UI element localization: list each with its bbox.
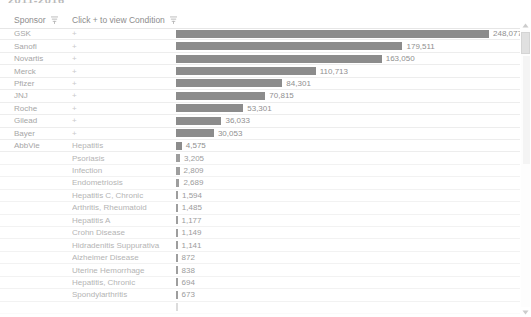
bar-value-label: 1,149 [182, 228, 202, 237]
cell-condition[interactable]: Hepatitis A [72, 216, 176, 225]
table-row[interactable] [0, 302, 531, 314]
column-header-sponsor-label: Sponsor [14, 15, 46, 25]
table-body[interactable]: GSK+248,077Sanofi+179,511Novartis+163,05… [0, 28, 531, 317]
cell-condition[interactable]: Hidradenitis Suppurativa [72, 241, 176, 250]
bar-cell: 673 [176, 289, 531, 300]
expand-plus-icon[interactable]: + [72, 105, 77, 113]
bar[interactable] [176, 55, 382, 63]
bar[interactable] [176, 216, 178, 224]
expand-plus-icon[interactable]: + [72, 80, 77, 88]
cell-condition[interactable]: + [72, 29, 176, 38]
expand-plus-icon[interactable]: + [72, 130, 77, 138]
cell-sponsor: Novartis [0, 54, 72, 63]
table-row[interactable]: Hidradenitis Suppurativa1,141 [0, 239, 531, 251]
cell-condition[interactable]: Hepatitis C, Chronic [72, 191, 176, 200]
cell-condition[interactable]: Infection [72, 166, 176, 175]
bar-value-label: 163,050 [386, 54, 415, 63]
column-header-condition[interactable]: Click + to view Condition [72, 15, 176, 25]
table-row[interactable]: Uterine Hemorrhage838 [0, 264, 531, 276]
cell-condition[interactable]: Hepatitis, Chronic [72, 278, 176, 287]
table-row[interactable]: Gilead+36,033 [0, 115, 531, 127]
cell-condition[interactable]: + [72, 67, 176, 76]
table-row[interactable]: Novartis+163,050 [0, 53, 531, 65]
expand-plus-icon[interactable]: + [72, 117, 77, 125]
scroll-down-arrow-icon[interactable] [520, 307, 531, 317]
table-row[interactable]: Crohn Disease1,149 [0, 227, 531, 239]
table-row[interactable]: Hepatitis A1,177 [0, 215, 531, 227]
column-header-sponsor[interactable]: Sponsor [0, 15, 72, 25]
cell-condition[interactable]: + [72, 54, 176, 63]
bar[interactable] [176, 191, 178, 199]
cell-condition[interactable]: + [72, 91, 176, 100]
cell-condition[interactable]: Uterine Hemorrhage [72, 266, 176, 275]
bar[interactable] [176, 229, 178, 237]
table-row[interactable]: JNJ+70,815 [0, 90, 531, 102]
cell-condition[interactable]: + [72, 129, 176, 138]
sort-filter-icon[interactable] [51, 16, 58, 24]
cell-condition[interactable]: + [72, 42, 176, 51]
cell-condition[interactable]: Endometriosis [72, 178, 176, 187]
table-row[interactable]: Hepatitis, Chronic694 [0, 277, 531, 289]
cell-condition[interactable]: Psoriasis [72, 154, 176, 163]
expand-plus-icon[interactable]: + [72, 68, 77, 76]
cell-condition[interactable]: Spondylarthritis [72, 290, 176, 299]
bar[interactable] [176, 266, 178, 274]
bar[interactable] [176, 154, 180, 162]
cell-condition[interactable]: Arthritis, Rheumatoid [72, 203, 176, 212]
bar[interactable] [176, 67, 316, 75]
cell-condition[interactable]: Hepatitis [72, 141, 176, 150]
bar[interactable] [176, 241, 178, 249]
bar[interactable] [176, 129, 214, 137]
cell-sponsor: Gilead [0, 116, 72, 125]
expand-plus-icon[interactable]: + [72, 55, 77, 63]
table-row[interactable]: Roche+53,301 [0, 103, 531, 115]
table-row[interactable]: Bayer+30,053 [0, 128, 531, 140]
scrollbar-track[interactable] [521, 30, 530, 307]
bar[interactable] [176, 79, 282, 87]
bar[interactable] [176, 42, 402, 50]
bar[interactable] [176, 30, 489, 38]
table-row[interactable]: Endometriosis2,689 [0, 177, 531, 189]
sort-filter-icon[interactable] [170, 16, 177, 24]
cell-condition[interactable]: Crohn Disease [72, 228, 176, 237]
cell-condition[interactable]: + [72, 79, 176, 88]
vertical-scrollbar[interactable] [520, 20, 531, 317]
table-row[interactable]: Spondylarthritis673 [0, 289, 531, 301]
table-row[interactable]: Sanofi+179,511 [0, 40, 531, 52]
bar[interactable] [176, 204, 178, 212]
bar[interactable] [176, 254, 178, 262]
bar[interactable] [176, 303, 178, 311]
bar[interactable] [176, 142, 182, 150]
table-row[interactable]: Infection2,809 [0, 165, 531, 177]
expand-plus-icon[interactable]: + [72, 92, 77, 100]
bar[interactable] [176, 167, 180, 175]
cell-condition-label: Uterine Hemorrhage [72, 266, 144, 275]
table-row[interactable]: Alzheimer Disease872 [0, 252, 531, 264]
bar-value-label: 872 [182, 253, 195, 262]
bar[interactable] [176, 278, 178, 286]
table-row[interactable]: GSK+248,077 [0, 28, 531, 40]
table-row[interactable]: Merck+110,713 [0, 65, 531, 77]
table-row[interactable]: Pfizer+84,301 [0, 78, 531, 90]
cell-condition[interactable]: + [72, 116, 176, 125]
bar-value-label: 179,511 [406, 42, 434, 51]
bar[interactable] [176, 104, 243, 112]
bar[interactable] [176, 179, 179, 187]
bar-cell: 30,053 [176, 128, 531, 139]
bar[interactable] [176, 117, 221, 125]
table-row[interactable]: Hepatitis C, Chronic1,594 [0, 190, 531, 202]
cell-sponsor: Bayer [0, 129, 72, 138]
table-row[interactable]: AbbVieHepatitis4,575 [0, 140, 531, 152]
bar-cell [176, 302, 531, 313]
bar[interactable] [176, 92, 265, 100]
table-row[interactable]: Arthritis, Rheumatoid1,485 [0, 202, 531, 214]
expand-plus-icon[interactable]: + [72, 30, 77, 38]
scroll-up-arrow-icon[interactable] [520, 20, 531, 30]
table-row[interactable]: Psoriasis3,205 [0, 152, 531, 164]
cell-condition[interactable]: Alzheimer Disease [72, 253, 176, 262]
scrollbar-thumb[interactable] [521, 32, 530, 54]
cell-condition[interactable]: + [72, 104, 176, 113]
cell-sponsor: Roche [0, 104, 72, 113]
expand-plus-icon[interactable]: + [72, 43, 77, 51]
bar[interactable] [176, 291, 178, 299]
